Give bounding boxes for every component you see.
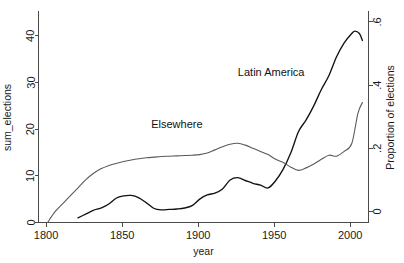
- series-line-elsewhere: [48, 103, 363, 223]
- series-line-latin-america: [78, 31, 362, 218]
- y-tick-label: 0: [25, 219, 37, 225]
- x-tick-label: 1950: [262, 229, 286, 241]
- line-chart: 18001850190019502000 010203040 0.2.4.6 L…: [0, 0, 404, 263]
- y-tick-label: 10: [25, 170, 37, 182]
- y-tick-label: 30: [25, 76, 37, 88]
- y2-tick-label: .4: [372, 81, 384, 90]
- chart-container: 18001850190019502000 010203040 0.2.4.6 L…: [0, 0, 404, 263]
- y-axis-left-title: sum_elections: [1, 84, 13, 151]
- series-annotations: Latin AmericaElsewhere: [151, 66, 305, 131]
- y2-tick-label: 0: [372, 208, 384, 214]
- y2-tick-label: .2: [372, 144, 384, 153]
- y-tick-label: 40: [25, 30, 37, 42]
- series-lines: [48, 31, 363, 222]
- y-axis-right-title: Proportion of elections: [384, 65, 396, 169]
- plot-frame: [39, 11, 369, 223]
- y-axis-left-ticks: 010203040: [25, 30, 39, 226]
- elsewhere-label: Elsewhere: [151, 118, 202, 130]
- x-tick-label: 2000: [338, 229, 362, 241]
- x-axis-ticks: 18001850190019502000: [34, 223, 363, 241]
- y-tick-label: 20: [25, 123, 37, 135]
- y2-tick-label: .6: [372, 17, 384, 26]
- x-tick-label: 1800: [34, 229, 58, 241]
- latin-america-label: Latin America: [238, 66, 306, 78]
- x-tick-label: 1900: [186, 229, 210, 241]
- x-tick-label: 1850: [110, 229, 134, 241]
- x-axis-title: year: [193, 245, 214, 257]
- y-axis-right-ticks: 0.2.4.6: [369, 17, 384, 214]
